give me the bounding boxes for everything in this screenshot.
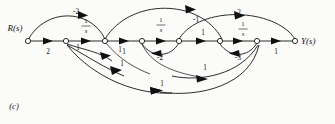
gain-label-edge-1: 1 s bbox=[82, 17, 91, 34]
gain-label-arc-fb-minus2: -2 bbox=[157, 54, 163, 62]
arrowhead-edge-2 bbox=[119, 38, 129, 45]
input-node bbox=[25, 38, 30, 43]
gain-label-arc-fb-1d: 1 bbox=[203, 64, 207, 72]
node-1 bbox=[63, 38, 68, 43]
node-5 bbox=[217, 38, 222, 43]
gain-label-edge-5: 1 s bbox=[239, 20, 248, 37]
gain-label-edge-0: 2 bbox=[46, 48, 50, 56]
node-3 bbox=[139, 38, 144, 43]
arrowhead-edge-1 bbox=[81, 38, 91, 45]
arrowhead-edge-4 bbox=[196, 38, 206, 45]
arc-feedback-1-e bbox=[160, 45, 259, 93]
gain-label-edge-2: 1 bbox=[122, 48, 126, 56]
gain-label-arc-fb-1b: 1 bbox=[120, 60, 124, 68]
gain-label-arc-2: 2 bbox=[237, 9, 241, 17]
node-2 bbox=[102, 38, 107, 43]
gain-label-edge-3-denominator: s bbox=[160, 26, 163, 33]
gain-label-edge-5-numerator: 1 bbox=[241, 20, 244, 27]
gain-label-edge-1-numerator: 1 bbox=[84, 17, 87, 24]
gain-label-arc-minus2: -2 bbox=[73, 8, 79, 16]
arc-crossing-a bbox=[142, 44, 200, 77]
gain-label-edge-6: 1 bbox=[274, 48, 278, 56]
gain-label-edge-3: 1 s bbox=[157, 16, 166, 33]
signal-flow-graph-canvas: R(s) Y(s) 2 1 s 1 1 s 1 1 s 1 -2 -1 2 1 … bbox=[0, 0, 335, 124]
arc-feedback-1-d bbox=[172, 45, 258, 78]
gain-label-arc-fb-minus3: -3 bbox=[235, 54, 241, 62]
gain-label-arc-fb-1a: 1 bbox=[118, 46, 122, 54]
arrowhead-edge-3 bbox=[156, 38, 166, 45]
gain-label-arc-fb-1e: 1 bbox=[76, 44, 80, 52]
output-label: Y(s) bbox=[301, 36, 316, 46]
panel-label: (c) bbox=[9, 101, 19, 111]
gain-label-edge-5-denominator: s bbox=[242, 30, 245, 37]
gain-label-edge-3-numerator: 1 bbox=[159, 16, 162, 23]
arrowhead-edge-6 bbox=[271, 38, 281, 45]
arc-feedforward-minus2 bbox=[28, 16, 105, 40]
arrowhead-arc-fb-1d bbox=[196, 75, 208, 83]
arrowhead-edge-0 bbox=[43, 38, 53, 45]
output-node bbox=[292, 38, 297, 43]
input-label: R(s) bbox=[7, 23, 23, 33]
signal-flow-graph-figure: R(s) Y(s) 2 1 s 1 1 s 1 1 s 1 -2 -1 2 1 … bbox=[0, 0, 335, 124]
node-4 bbox=[176, 38, 181, 43]
node-6 bbox=[254, 38, 259, 43]
gain-label-edge-4: 1 bbox=[201, 29, 205, 37]
arrowhead-edge-5 bbox=[233, 38, 243, 45]
gain-label-arc-minus1: -1 bbox=[193, 16, 199, 24]
gain-label-edge-1-denominator: s bbox=[85, 27, 88, 34]
gain-label-arc-fb-1c: 1 bbox=[160, 80, 164, 88]
